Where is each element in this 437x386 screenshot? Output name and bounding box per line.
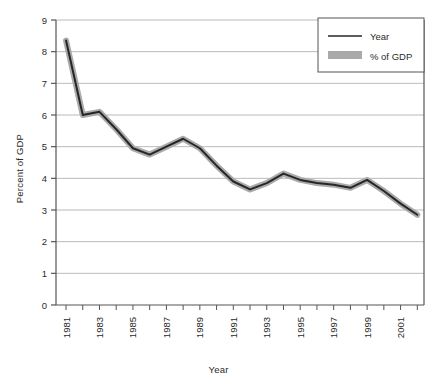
x-tick-label: 1991 [228, 317, 239, 338]
y-tick-label: 0 [42, 300, 47, 311]
y-tick-label: 6 [42, 110, 47, 121]
legend-label-year: Year [370, 31, 389, 42]
x-tick-label: 1987 [161, 317, 172, 338]
x-axis-title: Year [0, 364, 437, 375]
y-tick-label: 4 [42, 173, 47, 184]
y-tick-label: 5 [42, 141, 47, 152]
x-tick-label: 1997 [328, 317, 339, 338]
x-tick-label: 1989 [194, 317, 205, 338]
chart-container: 0123456789 19811983198519871989199119931… [0, 0, 437, 386]
x-tick-label: 1985 [127, 317, 138, 338]
y-tick-label: 2 [42, 236, 47, 247]
legend-marker-pct-of-gdp [328, 51, 362, 59]
x-tick-label: 1981 [61, 317, 72, 338]
y-axis-title: Percent of GDP [14, 114, 25, 224]
x-tick-label: 1995 [295, 317, 306, 338]
legend-label-pct-of-gdp: % of GDP [370, 51, 412, 62]
x-axis-ticks: 1981198319851987198919911993199519971999… [61, 305, 418, 338]
y-tick-label: 7 [42, 78, 47, 89]
x-tick-label: 1993 [261, 317, 272, 338]
y-tick-label: 9 [42, 15, 47, 26]
y-tick-label: 8 [42, 46, 47, 57]
x-tick-label: 1999 [362, 317, 373, 338]
x-tick-label: 1983 [94, 317, 105, 338]
x-tick-label: 2001 [395, 317, 406, 338]
y-tick-label: 3 [42, 205, 47, 216]
line-chart: 0123456789 19811983198519871989199119931… [0, 0, 437, 386]
y-tick-label: 1 [42, 268, 47, 279]
y-axis-ticks: 0123456789 [42, 15, 56, 311]
chart-legend: Year % of GDP [318, 18, 424, 72]
